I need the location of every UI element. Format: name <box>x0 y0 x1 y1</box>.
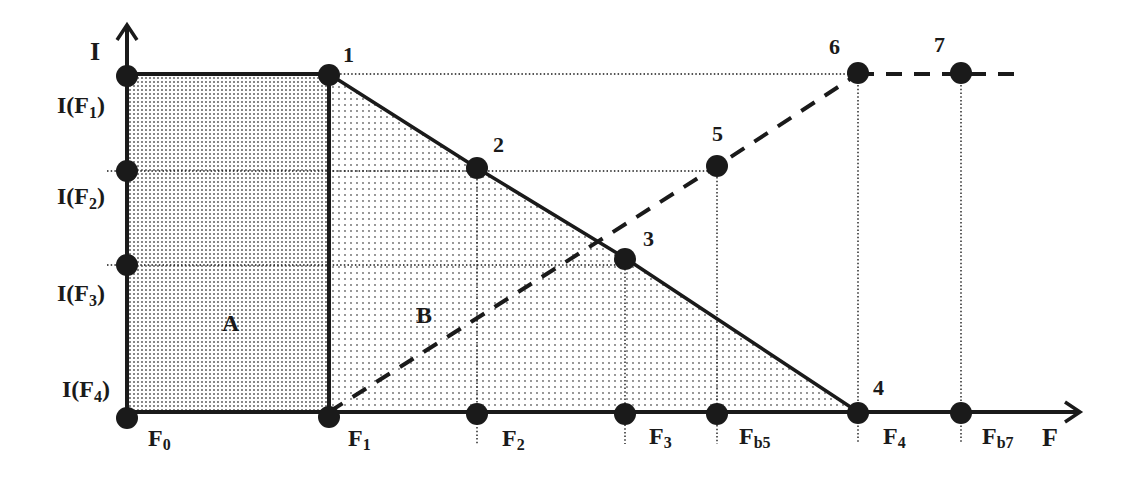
x-tick-labels: F0 F1 F2 F3 Fb5 F4 Fb7 <box>148 423 1014 453</box>
region-a <box>127 74 329 412</box>
point-label-2: 2 <box>493 132 504 157</box>
marker-point-4 <box>847 402 869 424</box>
marker-f1 <box>318 406 340 428</box>
region-a-label: A <box>222 310 240 336</box>
y-tick-IF3: I(F3) <box>57 280 105 309</box>
point-label-4: 4 <box>873 375 884 400</box>
x-tick-F2: F2 <box>502 425 525 453</box>
marker-f2 <box>466 403 488 425</box>
marker-fb5 <box>706 403 728 425</box>
x-tick-F0: F0 <box>148 425 171 453</box>
point-label-7: 7 <box>934 32 945 57</box>
x-tick-Fb5: Fb5 <box>739 423 771 451</box>
marker-point-5 <box>706 155 728 177</box>
marker-f3 <box>614 403 636 425</box>
y-tick-IF2: I(F2) <box>57 183 105 212</box>
x-axis-label: F <box>1042 423 1058 452</box>
point-label-6: 6 <box>829 34 840 59</box>
region-b-label: B <box>416 302 432 328</box>
point-label-5: 5 <box>712 121 723 146</box>
diagram-canvas: I F I(F1) I(F2) I(F3) I(F4) F0 F1 F2 F3 … <box>0 0 1137 487</box>
marker-point-3 <box>614 248 636 270</box>
x-tick-F1: F1 <box>348 425 371 453</box>
marker-y-if3 <box>116 254 138 276</box>
marker-point-6 <box>847 62 869 84</box>
y-axis-label: I <box>90 37 100 66</box>
marker-point-7 <box>950 62 972 84</box>
marker-y-if2 <box>116 160 138 182</box>
marker-origin <box>116 407 138 429</box>
x-tick-F3: F3 <box>649 423 672 451</box>
marker-fb7 <box>950 402 972 424</box>
x-tick-F4: F4 <box>883 423 906 451</box>
y-tick-labels: I(F1) I(F2) I(F3) I(F4) <box>57 92 110 405</box>
marker-y-top <box>116 65 138 87</box>
point-label-1: 1 <box>343 42 354 67</box>
marker-point-2 <box>466 157 488 179</box>
x-tick-Fb7: Fb7 <box>982 423 1014 451</box>
y-tick-IF1: I(F1) <box>57 92 105 121</box>
point-label-3: 3 <box>643 226 654 251</box>
y-tick-IF4: I(F4) <box>62 376 110 405</box>
marker-point-1 <box>318 64 340 86</box>
